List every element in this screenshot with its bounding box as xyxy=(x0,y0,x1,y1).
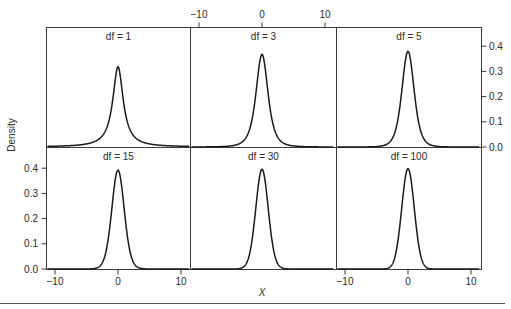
y-tick-label: 0.3 xyxy=(24,188,38,199)
y-tick-label: 0.4 xyxy=(489,41,503,52)
x-tick-label: −10 xyxy=(47,276,64,287)
panel-df-3: df = 3 xyxy=(192,31,334,147)
panel-title: df = 15 xyxy=(103,151,134,162)
y-tick-label: 0.1 xyxy=(489,116,503,127)
t-distribution-chart: df = 1df = 3df = 5df = 15df = 30df = 100… xyxy=(0,0,511,309)
density-curve xyxy=(338,169,480,269)
density-curve xyxy=(192,54,334,147)
y-tick-label: 0.3 xyxy=(489,66,503,77)
density-curve xyxy=(338,51,480,147)
y-tick-label: 0.0 xyxy=(24,264,38,275)
x-tick-label: 10 xyxy=(175,276,187,287)
y-axis-title: Density xyxy=(6,118,17,151)
x-tick-label: 0 xyxy=(259,9,265,20)
x-tick-label: 0 xyxy=(405,276,411,287)
x-tick-label: −10 xyxy=(191,9,208,20)
density-curve xyxy=(48,67,190,147)
y-tick-label: 0.0 xyxy=(489,142,503,153)
density-curve xyxy=(48,170,190,269)
panel-title: df = 1 xyxy=(106,31,132,42)
y-tick-label: 0.2 xyxy=(489,91,503,102)
panel-df-30: df = 30 xyxy=(192,151,334,270)
panels-group: df = 1df = 3df = 5df = 15df = 30df = 100 xyxy=(48,31,480,270)
panel-df-100: df = 100 xyxy=(338,151,480,270)
x-tick-label: 10 xyxy=(319,9,331,20)
y-tick-label: 0.2 xyxy=(24,213,38,224)
x-axis-title: X xyxy=(258,287,266,298)
x-tick-label: 10 xyxy=(465,276,477,287)
y-tick-label: 0.4 xyxy=(24,163,38,174)
panel-title: df = 100 xyxy=(391,151,428,162)
panel-df-15: df = 15 xyxy=(48,151,190,270)
x-tick-label: 0 xyxy=(115,276,121,287)
y-tick-label: 0.1 xyxy=(24,238,38,249)
panel-df-1: df = 1 xyxy=(48,31,190,147)
x-tick-label: −10 xyxy=(337,276,354,287)
density-curve xyxy=(192,169,334,269)
panel-df-5: df = 5 xyxy=(338,31,480,147)
panel-title: df = 5 xyxy=(396,31,422,42)
panel-title: df = 3 xyxy=(251,31,277,42)
panel-title: df = 30 xyxy=(248,151,279,162)
